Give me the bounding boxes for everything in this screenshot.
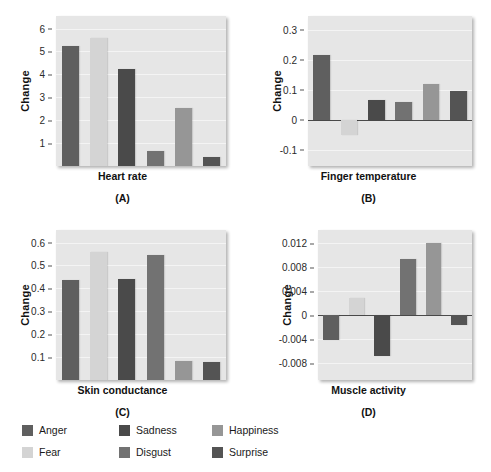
bar-sadness	[368, 100, 384, 120]
legend-item-happiness: Happiness	[212, 424, 279, 436]
bar-sadness	[118, 279, 135, 380]
plot-area	[318, 230, 472, 380]
y-axis-tick-label: 0.3	[283, 24, 304, 35]
bar-disgust	[147, 151, 164, 166]
y-axis-tick-label: 6	[39, 23, 52, 34]
bar-surprise	[450, 91, 466, 120]
bar-surprise	[203, 362, 220, 380]
legend: AngerSadnessHappinessFearDisgustSurprise	[22, 424, 352, 468]
bar-group	[318, 230, 472, 380]
legend-label: Fear	[39, 446, 61, 458]
bar-disgust	[395, 102, 411, 120]
emotion-physiology-figure: Change654321Heart rate(A) Change0.30.20.…	[0, 0, 491, 472]
legend-swatch-fear	[22, 447, 33, 458]
legend-swatch-surprise	[212, 447, 223, 458]
bar-anger	[62, 280, 79, 380]
panel-b: Change0.30.20.10-0.1Finger temperature(B…	[246, 2, 491, 216]
bar-fear	[349, 298, 364, 315]
bar-happiness	[175, 361, 192, 380]
y-axis-ticks: 0.60.50.40.30.20.1	[10, 216, 52, 430]
y-axis-tick-label: 2	[39, 115, 52, 126]
bar-sadness	[374, 315, 389, 356]
y-axis-tick-label: -0.1	[280, 144, 304, 155]
legend-label: Anger	[39, 424, 67, 436]
y-axis-tick-label: -0.008	[279, 358, 314, 369]
bar-group	[56, 16, 226, 166]
y-axis-tick-label: 0.2	[283, 54, 304, 65]
y-axis-tick-label: 5	[39, 46, 52, 57]
bar-surprise	[203, 157, 220, 166]
y-axis-tick-label: 0	[301, 310, 314, 321]
y-axis-tick-label: 0.1	[31, 352, 52, 363]
panel-x-label: Muscle activity	[246, 384, 491, 396]
bar-sadness	[118, 69, 135, 166]
panel-x-label: Heart rate	[0, 170, 245, 182]
y-axis-tick-label: 0	[291, 114, 304, 125]
bar-happiness	[423, 84, 439, 120]
y-axis-tick-label: -0.004	[279, 334, 314, 345]
legend-item-fear: Fear	[22, 446, 61, 458]
bar-group	[308, 16, 472, 166]
legend-label: Happiness	[229, 424, 279, 436]
legend-item-anger: Anger	[22, 424, 67, 436]
plot-area	[56, 16, 226, 166]
panel-a: Change654321Heart rate(A)	[0, 2, 245, 216]
bar-disgust	[400, 259, 415, 315]
legend-label: Surprise	[229, 446, 268, 458]
bar-anger	[313, 55, 329, 120]
y-axis-tick-label: 0.6	[31, 237, 52, 248]
bar-anger	[62, 46, 79, 166]
panel-x-label: Skin conductance	[0, 384, 245, 396]
panel-d: Change0.0120.0080.0040-0.004-0.008Muscle…	[246, 216, 491, 430]
y-axis-ticks: 0.0120.0080.0040-0.004-0.008	[272, 216, 314, 430]
y-axis-tick-label: 0.4	[31, 283, 52, 294]
panel-caption: (B)	[246, 192, 491, 204]
bar-fear	[341, 120, 357, 135]
y-axis-tick-label: 3	[39, 92, 52, 103]
panel-caption: (C)	[0, 406, 245, 418]
bar-happiness	[175, 108, 192, 166]
bar-surprise	[451, 315, 466, 325]
bar-anger	[323, 315, 338, 340]
y-axis-tick-label: 1	[39, 138, 52, 149]
y-axis-tick-label: 4	[39, 69, 52, 80]
legend-swatch-sadness	[119, 425, 130, 436]
plot-area	[56, 230, 226, 380]
bar-fear	[90, 252, 107, 380]
legend-label: Sadness	[136, 424, 177, 436]
bar-fear	[90, 38, 107, 166]
legend-label: Disgust	[136, 446, 171, 458]
y-axis-tick-label: 0.5	[31, 260, 52, 271]
y-axis-tick-label: 0.012	[282, 238, 314, 249]
bar-group	[56, 230, 226, 380]
legend-swatch-disgust	[119, 447, 130, 458]
y-axis-ticks: 0.30.20.10-0.1	[262, 2, 304, 216]
plot-area	[308, 16, 472, 166]
bar-disgust	[147, 255, 164, 380]
y-axis-tick-label: 0.008	[282, 262, 314, 273]
bar-happiness	[426, 243, 441, 316]
y-axis-tick-label: 0.1	[283, 84, 304, 95]
legend-item-sadness: Sadness	[119, 424, 177, 436]
y-axis-ticks: 654321	[10, 2, 52, 216]
panel-caption: (D)	[246, 406, 491, 418]
legend-swatch-anger	[22, 425, 33, 436]
legend-item-disgust: Disgust	[119, 446, 171, 458]
panel-caption: (A)	[0, 192, 245, 204]
y-axis-tick-label: 0.3	[31, 306, 52, 317]
y-axis-tick-label: 0.2	[31, 329, 52, 340]
y-axis-tick-label: 0.004	[282, 286, 314, 297]
legend-item-surprise: Surprise	[212, 446, 268, 458]
panel-x-label: Finger temperature	[246, 170, 491, 182]
panel-c: Change0.60.50.40.30.20.1Skin conductance…	[0, 216, 245, 430]
legend-swatch-happiness	[212, 425, 223, 436]
